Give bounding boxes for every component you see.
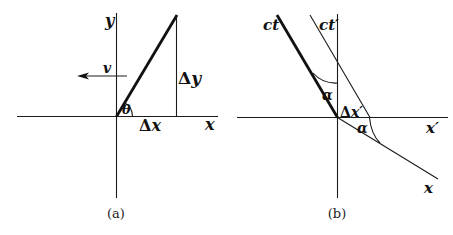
- x-axis-label: x: [423, 179, 434, 197]
- delta-y-label: Δy: [178, 68, 202, 88]
- y-axis-label: y: [104, 11, 116, 30]
- caption-a: (a): [107, 206, 125, 221]
- x-axis-line: [338, 118, 439, 180]
- ct-axis-label: ct: [263, 16, 279, 34]
- delta-x-prime-variable: x′: [350, 104, 363, 120]
- ct-prime-axis-label: ct′: [319, 16, 339, 34]
- delta-symbol: Δ: [340, 104, 351, 120]
- velocity-arrow: [77, 73, 127, 80]
- delta-x-label: Δx: [139, 116, 161, 135]
- delta-x-variable: x: [150, 116, 161, 135]
- figure: y v Δy θ Δx x (a) ct ct′ α Δx′ α x′ x (b…: [0, 0, 453, 235]
- delta-x-prime-label: Δx′: [340, 104, 363, 120]
- velocity-label: v: [103, 60, 112, 76]
- x-prime-axis-label: x′: [425, 119, 439, 137]
- delta-symbol: Δ: [178, 68, 191, 88]
- theta-label: θ: [122, 102, 131, 117]
- diagram-b: ct ct′ α Δx′ α x′ x (b): [237, 14, 448, 221]
- delta-symbol: Δ: [139, 116, 151, 135]
- x-axis-label: x: [204, 115, 215, 134]
- caption-b: (b): [328, 206, 346, 221]
- diagram-a: y v Δy θ Δx x (a): [17, 11, 218, 221]
- delta-y-variable: y: [190, 68, 202, 88]
- alpha-upper-label: α: [322, 87, 333, 103]
- alpha-lower-label: α: [357, 120, 368, 136]
- alpha-lower-arc: [370, 118, 381, 144]
